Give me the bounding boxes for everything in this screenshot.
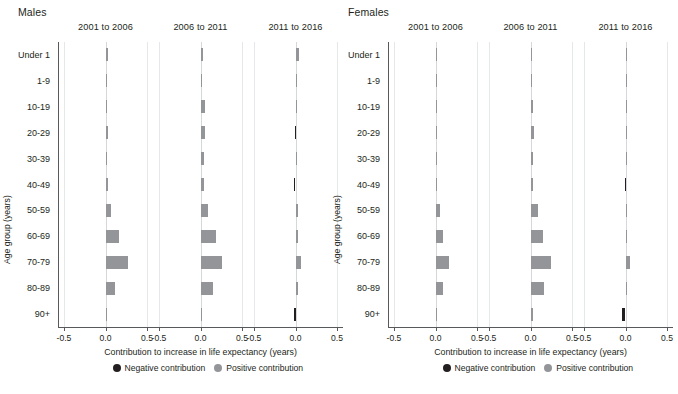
gridline [572,42,573,327]
y-axis-tick-label: 70-79 [357,258,380,267]
bar-positive [436,100,437,113]
legend-label: Positive contribution [556,363,633,373]
y-axis-tick-label: 10-19 [357,102,380,111]
bar-negative [625,178,626,191]
x-axis-tick [489,327,490,331]
bar-positive [436,74,437,87]
subpanel-females-0: 2001 to 2006-0.50.00.5 [388,0,483,394]
y-axis-tick-label: 30-39 [357,154,380,163]
plot-area [483,42,578,327]
x-axis-tick [531,327,532,331]
bar-positive [626,152,627,165]
y-axis-tick-label: 60-69 [357,232,380,241]
bar-positive [626,100,627,113]
legend-item-pos: Positive contribution [544,363,633,373]
x-axis-tick [584,327,585,331]
x-axis-tick-label: 0.0 [430,334,442,343]
bar-positive [436,126,437,139]
bar-positive [531,100,533,113]
bar-positive [626,204,627,217]
bar-positive [436,204,441,217]
subpanel-females-1: 2006 to 2011-0.50.00.5 [483,0,578,394]
x-axis-tick [572,327,573,331]
gridline [489,42,490,327]
bar-positive [531,230,543,243]
subpanel-title: 2006 to 2011 [483,22,578,32]
y-axis-tick-label: 90+ [365,310,380,319]
y-axis-labels: Under 11-910-1920-2930-3940-4950-5960-69… [0,0,384,394]
x-axis-tick-label: 0.0 [525,334,537,343]
bar-positive [531,308,533,321]
bar-positive [531,256,552,269]
bar-positive [531,48,533,61]
x-axis-tick [436,327,437,331]
bar-positive [436,282,443,295]
y-axis-tick-label: 50-59 [357,206,380,215]
x-axis-tick-label: 0.0 [620,334,632,343]
legend-item-neg: Negative contribution [443,363,536,373]
bar-positive [436,178,438,191]
bar-positive [531,126,534,139]
gridline [667,42,668,327]
bar-positive [626,48,627,61]
x-axis-tick [477,327,478,331]
bar-positive [531,204,538,217]
bar-positive [626,126,627,139]
x-axis-tick-label: -0.5 [577,334,592,343]
bar-positive [436,48,438,61]
plot-area [578,42,673,327]
bar-positive [436,152,438,165]
bar-positive [531,282,545,295]
bar-positive [436,256,449,269]
y-axis-tick-label: 80-89 [357,284,380,293]
subpanel-title: 2011 to 2016 [578,22,673,32]
y-axis-tick-label: 40-49 [357,180,380,189]
negative-swatch-icon [443,364,451,372]
gridline [477,42,478,327]
bar-positive [626,256,631,269]
bar-negative [622,308,625,321]
legend: Negative contributionPositive contributi… [0,363,678,373]
subpanel-title: 2001 to 2006 [388,22,483,32]
x-axis-tick-label: -0.5 [387,334,402,343]
bar-positive [626,74,627,87]
bar-positive [626,282,628,295]
y-axis-tick-label: 1-9 [367,76,380,85]
x-axis-tick [667,327,668,331]
plot-area [388,42,483,327]
x-axis-title: Contribution to increase in life expecta… [434,347,627,357]
x-axis-tick [394,327,395,331]
x-axis-tick [626,327,627,331]
bar-positive [436,308,437,321]
bar-positive [531,74,532,87]
bar-positive [531,178,534,191]
x-axis-tick-label: -0.5 [482,334,497,343]
legend-label: Negative contribution [455,363,536,373]
x-axis-tick-label: 0.5 [661,334,673,343]
subpanel-females-2: 2011 to 2016-0.50.00.5 [578,0,673,394]
y-axis-tick-label: Under 1 [348,50,380,59]
positive-swatch-icon [544,364,552,372]
gridline [394,42,395,327]
bar-positive [531,152,533,165]
gridline [584,42,585,327]
y-axis-tick-label: 20-29 [357,128,380,137]
bar-positive [626,230,628,243]
bar-positive [436,230,444,243]
